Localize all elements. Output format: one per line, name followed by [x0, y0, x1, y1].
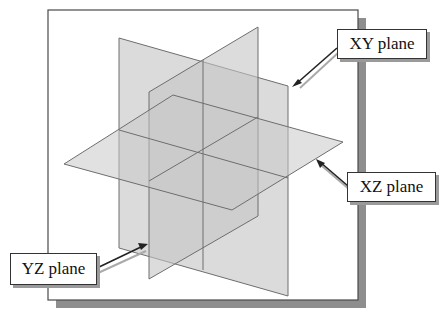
callout-yz-label: YZ plane [22, 259, 86, 279]
frame-shadow-bottom [56, 300, 366, 308]
callout-yz-plane: YZ plane [10, 253, 97, 285]
callout-xz-label: XZ plane [360, 177, 424, 197]
callout-xy-label: XY plane [350, 34, 415, 54]
frame-shadow-right [358, 18, 366, 308]
callout-xz-plane: XZ plane [347, 172, 436, 202]
callout-xy-plane: XY plane [337, 29, 427, 59]
